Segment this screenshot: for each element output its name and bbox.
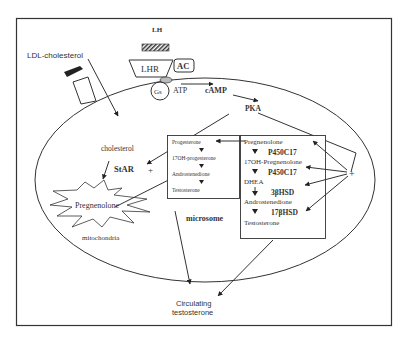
ac-label: AC [177,61,189,71]
lh-hormone-icon [142,44,169,51]
atp-label: ATP [173,86,188,95]
camp-label: cAMP [205,86,227,95]
lh-label: LH [152,26,163,34]
delta4-item: Testosterone [172,187,200,193]
delta4-item: 17OH-progesterone [172,155,216,161]
delta5-item: Pregnenolone [244,138,283,146]
cholesterol-label: cholesterol [101,144,134,153]
pka-plus-sign: + [349,168,355,179]
delta5-item: DHEA [244,178,263,186]
star-label: StAR [114,164,135,174]
delta5-enzyme: 3βHSD [271,188,295,197]
ldl-particle-icon [64,66,83,77]
delta5-item: Androstenedione [244,198,292,206]
star-plus-sign: + [148,165,153,175]
ldl-uptake-arrow [88,59,118,116]
camp-to-pka-arrow [233,95,258,101]
lhr-label: LHR [141,64,159,74]
microsome-label: microsome [186,214,224,223]
ldl-receptor-shape [73,77,96,104]
delta5-enzyme: P450C17 [268,168,297,177]
ldl-cholesterol-label: LDL-cholesterol [27,51,83,60]
gs-label: Gs [154,88,162,96]
delta5-to-circulation-arrow [218,240,273,296]
delta5-item: 17OH-Pregnenolone [244,158,302,166]
circulating-testosterone-label-2: testosterone [172,308,213,317]
delta5-enzyme: 17βHSD [271,208,298,217]
cholesterol-to-mitochondria-arrow [103,161,109,179]
delta4-item: Androstenedione [172,171,210,177]
circulating-testosterone-label-1: Circulating [176,299,211,308]
pregnenolone-mitochondria-label: Pregnenolone [75,201,119,210]
mitochondria-label: mitochondria [82,234,120,242]
pka-label: PKA [245,104,261,113]
delta4-item: Progesterone [172,139,201,145]
delta5-item: Testosterone [244,219,279,227]
delta5-enzyme: P450C17 [268,148,297,157]
testosterone-synthesis-diagram: LH LHR AC Gs ATP cAMP PKA LDL-cholestero… [0,0,403,338]
